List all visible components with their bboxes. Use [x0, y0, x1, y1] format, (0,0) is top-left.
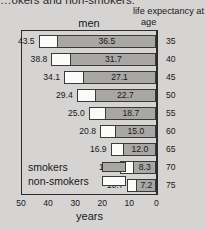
bar-segment-non-smokers	[112, 144, 125, 155]
bar-row: 12.016.965	[0, 143, 206, 156]
bar-segment-smokers: 22.7	[96, 90, 156, 101]
x-tick-label: 30	[65, 198, 85, 209]
bar-row: 31.738.840	[0, 53, 206, 66]
age-tick-label: 35	[166, 36, 176, 47]
age-tick-label: 50	[166, 90, 176, 101]
bar-segment-non-smokers	[90, 108, 107, 119]
legend-label-non-smokers: non-smokers	[28, 175, 102, 187]
bar-value-non-smokers: 29.4	[56, 90, 73, 101]
age-tick-label: 75	[166, 180, 176, 191]
legend-swatch-non-smokers	[102, 176, 126, 186]
chart-legend: smokers non-smokers	[28, 160, 148, 188]
bar-segment-smokers: 15.0	[116, 126, 155, 137]
bar-segment-smokers: 36.5	[58, 36, 155, 47]
x-tick-label: 40	[38, 198, 58, 209]
bar-value-smokers: 12.0	[132, 145, 149, 154]
bar-segment-smokers: 31.7	[71, 54, 155, 65]
bar-segment-non-smokers	[101, 126, 116, 137]
legend-item-smokers: smokers	[28, 160, 148, 174]
bar-value-smokers: 18.7	[122, 109, 139, 118]
bar-row: 22.729.450	[0, 89, 206, 102]
bar-segment-non-smokers	[40, 36, 59, 47]
chart-title: men	[21, 17, 157, 29]
bar-value-non-smokers: 38.8	[31, 54, 48, 65]
bar-value-smokers: 15.0	[127, 127, 144, 136]
stacked-bar: 27.1	[64, 71, 156, 84]
age-tick-label: 55	[166, 108, 176, 119]
bar-segment-non-smokers	[78, 90, 96, 101]
age-tick-label: 65	[166, 144, 176, 155]
x-tick-label: 10	[119, 198, 139, 209]
bar-value-non-smokers: 16.9	[90, 144, 107, 155]
bar-segment-non-smokers	[65, 72, 84, 83]
bar-value-smokers: 36.5	[98, 37, 115, 46]
stacked-bar: 18.7	[89, 107, 157, 120]
stacked-bar: 22.7	[77, 89, 157, 102]
legend-label-smokers: smokers	[28, 161, 102, 173]
stacked-bar: 15.0	[100, 125, 156, 138]
x-tick-label: 20	[92, 198, 112, 209]
bar-row: 27.134.145	[0, 71, 206, 84]
age-tick-label: 45	[166, 72, 176, 83]
x-tick-label: 0	[146, 198, 166, 209]
bar-value-smokers: 22.7	[117, 91, 134, 100]
age-tick-label: 70	[166, 162, 176, 173]
stacked-bar: 12.0	[111, 143, 157, 156]
bar-value-non-smokers: 20.8	[79, 126, 96, 137]
age-tick-label: 60	[166, 126, 176, 137]
bar-value-smokers: 31.7	[105, 55, 122, 64]
bar-value-non-smokers: 25.0	[68, 108, 85, 119]
bar-row: 18.725.055	[0, 107, 206, 120]
bar-value-smokers: 27.1	[111, 73, 128, 82]
x-axis-label: years	[21, 210, 158, 222]
legend-swatch-smokers	[102, 162, 126, 172]
stacked-bar: 36.5	[39, 35, 157, 48]
stacked-bar: 31.7	[51, 53, 156, 66]
bar-row: 36.543.535	[0, 35, 206, 48]
y-axis-heading-line1: life expectancy at	[133, 6, 204, 16]
bar-segment-smokers: 18.7	[106, 108, 155, 119]
age-tick-label: 40	[166, 54, 176, 65]
bar-value-non-smokers: 43.5	[18, 36, 35, 47]
x-tick-label: 50	[11, 198, 31, 209]
bar-segment-smokers: 12.0	[124, 144, 155, 155]
bar-value-non-smokers: 34.1	[43, 72, 60, 83]
bar-segment-non-smokers	[52, 54, 71, 65]
legend-item-non-smokers: non-smokers	[28, 174, 148, 188]
bar-segment-smokers: 27.1	[84, 72, 156, 83]
bar-row: 15.020.860	[0, 125, 206, 138]
